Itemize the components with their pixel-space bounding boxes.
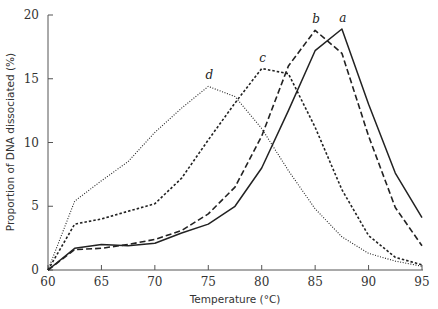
x-tick-label: 90 [361,275,376,289]
series-line-a [48,29,422,270]
y-tick-label: 0 [31,263,39,277]
y-tick-label: 20 [24,8,39,22]
x-tick-label: 80 [254,275,269,289]
series-line-b [48,30,422,270]
series-label-b: b [312,12,320,26]
x-tick-label: 85 [308,275,323,289]
series-label-c: c [259,51,266,65]
series-lines [48,29,422,270]
x-tick-label: 95 [414,275,429,289]
series-line-d [48,86,422,270]
series-labels: abcd [205,11,346,82]
dna-dissociation-chart: 606570758085909505101520 abcd Temperatur… [0,0,438,309]
y-tick-label: 15 [24,72,39,86]
x-tick-label: 70 [147,275,162,289]
series-label-d: d [205,68,213,82]
x-axis-title: Temperature (°C) [189,293,281,305]
x-tick-label: 65 [94,275,109,289]
x-tick-label: 75 [201,275,216,289]
y-tick-label: 10 [24,136,39,150]
x-tick-label: 60 [40,275,55,289]
y-axis-title: Proportion of DNA dissociated (%) [4,53,16,231]
y-tick-label: 5 [31,199,39,213]
series-label-a: a [339,11,346,25]
